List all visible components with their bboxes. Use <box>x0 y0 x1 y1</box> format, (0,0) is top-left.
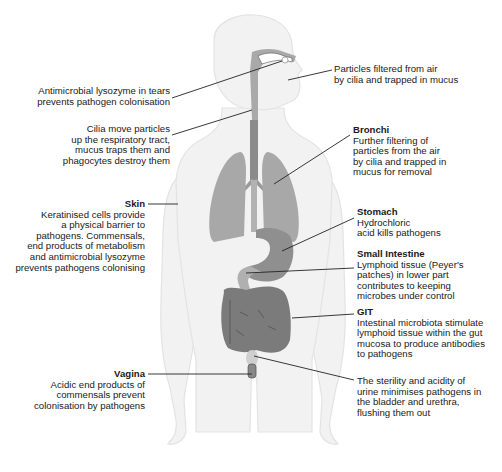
label-small-intestine: Small Intestine Lymphoid tissue (Peyer's… <box>357 249 464 302</box>
label-trachea: Cilia move particles up the respiratory … <box>63 124 170 166</box>
label-git: GIT Intestinal microbiota stimulate lymp… <box>357 307 485 360</box>
intestines <box>221 287 291 353</box>
bladder <box>246 350 258 366</box>
label-bronchi: Bronchi Further filtering of particles f… <box>353 125 446 178</box>
label-skin: Skin Keratinised cells provide a physica… <box>15 199 145 273</box>
vagina <box>248 364 256 378</box>
label-vagina: Vagina Acidic end products of commensals… <box>34 369 145 411</box>
label-tears: Antimicrobial lysozyme in tears prevents… <box>37 86 170 107</box>
label-nose: Particles filtered from air by cilia and… <box>334 64 458 85</box>
label-stomach: Stomach Hydrochloric acid kills pathogen… <box>357 207 441 239</box>
oesophagus <box>251 180 257 232</box>
label-urinary: The sterility and acidity of urine minim… <box>357 376 481 418</box>
trachea <box>250 120 258 180</box>
